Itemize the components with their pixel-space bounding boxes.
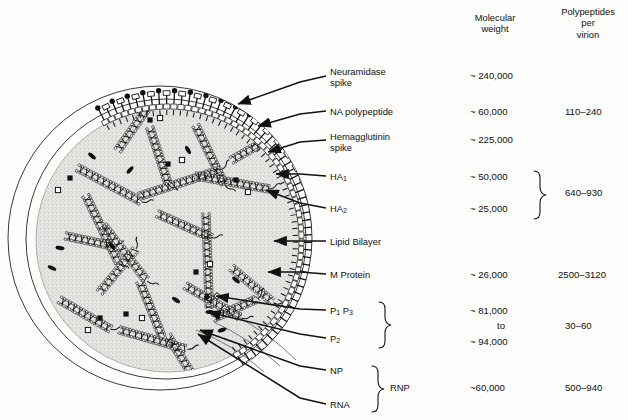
brace-p [379,302,391,348]
mw-ha1: ~ 50,000 [470,171,508,183]
brace-ha [534,171,546,219]
count-rnp: 500–940 [565,382,602,394]
count-p: 30–60 [565,320,592,332]
mw-hemagglutinin-spike: ~ 225,000 [470,134,513,146]
figure-canvas: Molecular weight Polypeptides per virion… [0,0,628,420]
mw-neuramidase-spike: ~ 240,000 [470,70,513,82]
mw-ha2: ~ 25,000 [470,203,508,215]
mw-rnp: ~60,000 [470,382,505,394]
mw-m-protein: ~ 26,000 [470,269,508,281]
mw-p-connector: to [497,320,505,332]
brace-layer [0,0,628,420]
brace-rnp [372,366,384,412]
count-m-protein: 2500–3120 [558,269,606,281]
count-ha: 640–930 [565,187,602,199]
mw-p-upper: ~ 81,000 [470,305,508,317]
label-rnp-group: RNP [390,382,410,393]
mw-p-lower: ~ 94,000 [470,336,508,348]
mw-na-polypeptide: ~ 60,000 [470,106,508,118]
count-na-polypeptide: 110–240 [565,106,602,118]
